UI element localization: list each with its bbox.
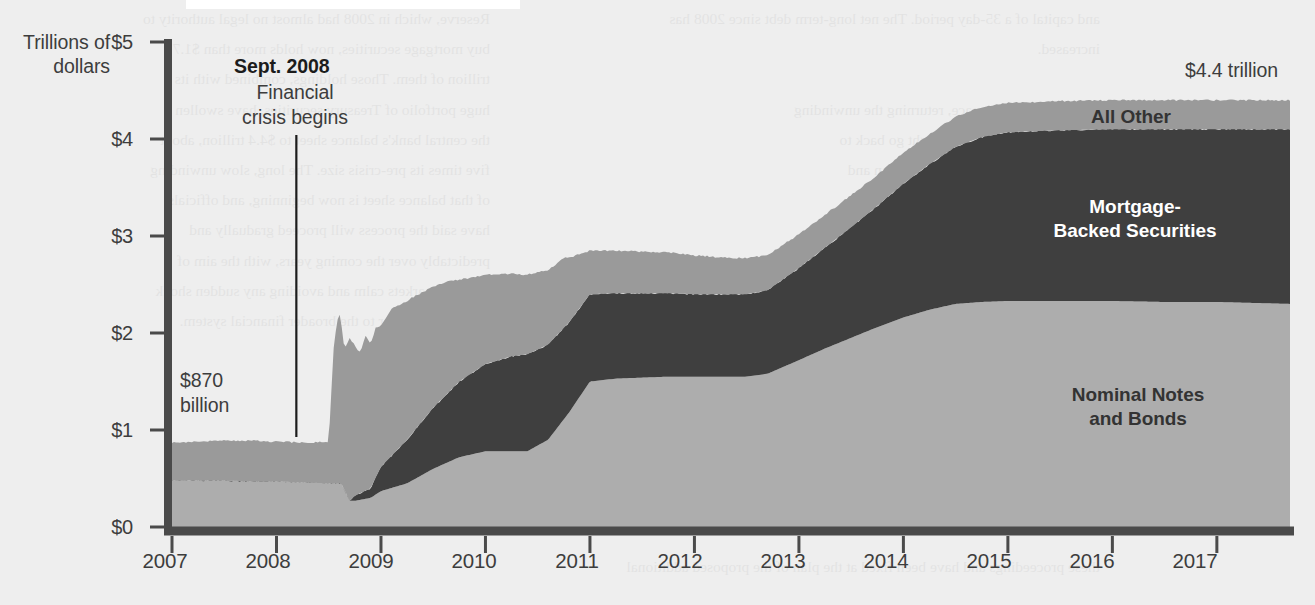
series-label-mortgage-backed-securities: Mortgage- Backed Securities bbox=[1010, 195, 1260, 242]
y-tick-label-2: $2 bbox=[85, 322, 133, 345]
x-tick-label-2017: 2017 bbox=[1145, 549, 1245, 573]
x-tick-label-2010: 2010 bbox=[424, 549, 524, 573]
x-tick-label-2014: 2014 bbox=[836, 549, 936, 573]
y-tick-label-5: $5 bbox=[85, 31, 133, 54]
x-tick-label-2015: 2015 bbox=[939, 549, 1039, 573]
start-value-callout: $870 billion bbox=[180, 368, 310, 417]
series-label-nominal-notes-and-bonds: Nominal Notes and Bonds bbox=[1028, 383, 1248, 430]
x-tick-label-2007: 2007 bbox=[115, 549, 215, 573]
x-tick-label-2013: 2013 bbox=[733, 549, 833, 573]
series-label-nominal-line2: and Bonds bbox=[1028, 407, 1248, 431]
x-tick-label-2008: 2008 bbox=[218, 549, 318, 573]
y-axis-title-line2: dollars bbox=[10, 54, 110, 78]
series-label-mbs-line1: Mortgage- bbox=[1010, 195, 1260, 219]
y-tick-label-4: $4 bbox=[85, 128, 133, 151]
y-tick-label-0: $0 bbox=[85, 516, 133, 539]
start-value-line1: $870 bbox=[180, 368, 310, 393]
x-tick-label-2011: 2011 bbox=[527, 549, 627, 573]
x-tick-label-2012: 2012 bbox=[630, 549, 730, 573]
crisis-annotation-title: Sept. 2008 bbox=[234, 55, 329, 78]
y-tick-label-3: $3 bbox=[85, 225, 133, 248]
series-label-mbs-line2: Backed Securities bbox=[1010, 219, 1260, 243]
start-value-line2: billion bbox=[180, 393, 310, 418]
stacked-area-plot bbox=[0, 0, 1315, 605]
series-label-all-other: All Other bbox=[1056, 105, 1206, 129]
crisis-annotation-subtitle: Financial crisis begins bbox=[215, 80, 375, 129]
y-tick-label-1: $1 bbox=[85, 419, 133, 442]
crisis-annotation-subtitle-line2: crisis begins bbox=[215, 105, 375, 130]
x-tick-label-2009: 2009 bbox=[321, 549, 421, 573]
end-value-callout: $4.4 trillion bbox=[1185, 58, 1278, 83]
crisis-annotation-subtitle-line1: Financial bbox=[215, 80, 375, 105]
chart-figure: Reserve, which in 2008 had almost no leg… bbox=[0, 0, 1315, 605]
series-label-nominal-line1: Nominal Notes bbox=[1028, 383, 1248, 407]
x-tick-label-2016: 2016 bbox=[1042, 549, 1142, 573]
area-series-group bbox=[172, 99, 1290, 527]
